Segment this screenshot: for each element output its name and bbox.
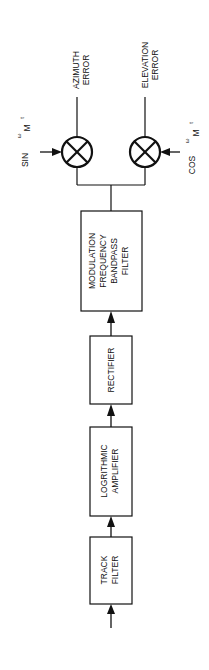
elevation-label-1: ELEVATION — [140, 42, 150, 88]
rectifier-block: RECTIFIER — [90, 336, 132, 404]
log-amplifier-block: LOGRITHMIC AMPLIFIER — [90, 427, 132, 516]
svg-text:ω: ω — [16, 133, 22, 138]
svg-text:SIN: SIN — [20, 153, 30, 167]
track-filter-line-2: FILTER — [110, 556, 120, 585]
track-filter-block: TRACK FILTER — [90, 537, 132, 604]
track-filter-line-1: TRACK — [99, 555, 109, 584]
svg-text:COS: COS — [187, 155, 197, 174]
cos-reference-label: COS ω M t — [184, 122, 201, 174]
azimuth-output: AZIMUTH ERROR — [71, 51, 91, 137]
split-connector — [77, 167, 145, 211]
bandpass-line-4: FILTER — [120, 247, 130, 276]
svg-text:ω: ω — [184, 138, 190, 143]
log-amp-line-1: LOGRITHMIC — [99, 444, 109, 497]
azimuth-label-1: AZIMUTH — [71, 51, 81, 89]
cos-reference-arrow — [160, 148, 180, 156]
elevation-label-2: ERROR — [150, 50, 160, 81]
arrow-logamp-to-rectifier — [107, 404, 115, 427]
block-diagram: TRACK FILTER LOGRITHMIC AMPLIFIER RECTIF… — [0, 0, 209, 670]
azimuth-multiplier-icon — [62, 137, 92, 167]
bandpass-line-2: FREQUENCY — [98, 234, 108, 288]
bandpass-line-3: BANDPASS — [109, 238, 119, 284]
arrow-track-to-logamp — [107, 516, 115, 537]
rectifier-label: RECTIFIER — [106, 348, 116, 393]
log-amp-line-2: AMPLIFIER — [110, 449, 120, 494]
input-arrow — [107, 604, 115, 628]
sin-reference-label: SIN ω M t — [16, 117, 32, 167]
azimuth-label-2: ERROR — [81, 55, 91, 86]
svg-text:M: M — [22, 124, 32, 131]
elevation-output: ELEVATION ERROR — [140, 42, 160, 137]
elevation-multiplier-icon — [130, 137, 160, 167]
arrow-rectifier-to-bandpass — [107, 311, 115, 336]
svg-text:t: t — [188, 122, 194, 124]
bandpass-line-1: MODULATION — [87, 233, 97, 289]
svg-text:t: t — [19, 117, 25, 119]
sin-reference-arrow — [40, 148, 62, 156]
svg-text:M: M — [191, 129, 201, 136]
bandpass-filter-block: MODULATION FREQUENCY BANDPASS FILTER — [81, 211, 142, 311]
